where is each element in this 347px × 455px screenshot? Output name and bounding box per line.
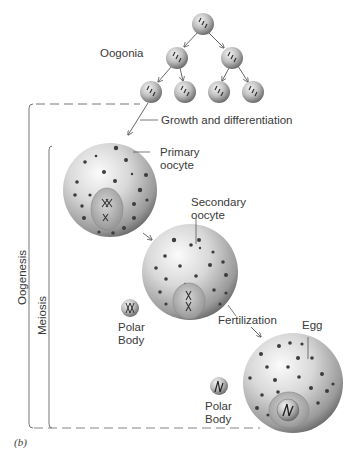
diagram-graphics — [0, 0, 347, 455]
polar-body-2-label-1: Polar — [205, 400, 232, 413]
egg-label: Egg — [302, 319, 322, 332]
polar-body-1-label-1: Polar — [118, 321, 145, 334]
primary-oocyte — [63, 143, 157, 237]
secondary-oocyte — [142, 224, 238, 320]
oogenesis-diagram: Oogonia Growth and differentiation Prima… — [0, 0, 347, 455]
polar-body-2-label-2: Body — [205, 413, 231, 426]
oogonium-cell — [242, 81, 264, 103]
meiosis-bracket-label: Meiosis — [36, 296, 48, 335]
fertilization-label: Fertilization — [218, 314, 277, 327]
polar-body-1 — [121, 299, 139, 317]
primary-oocyte-label-1: Primary — [160, 146, 200, 159]
oogonium-cell — [221, 47, 243, 69]
meiosis-bracket — [49, 146, 52, 428]
secondary-oocyte-label-1: Secondary — [191, 196, 246, 209]
polar-body-2 — [210, 377, 228, 395]
oogonia-label: Oogonia — [100, 47, 143, 60]
egg — [243, 333, 343, 433]
growth-label: Growth and differentiation — [161, 114, 292, 127]
polar-body-1-label-2: Body — [118, 334, 144, 347]
oogonium-cell — [166, 47, 188, 69]
oogonia-cells — [140, 13, 264, 103]
oogonium-cell — [208, 81, 230, 103]
oogenesis-bracket-label: Oogenesis — [16, 250, 28, 305]
secondary-oocyte-label-2: oocyte — [191, 209, 225, 222]
oogonium-cell — [174, 81, 196, 103]
oogonium-cell — [140, 81, 162, 103]
oogonium-cell — [192, 13, 214, 35]
panel-label: (b) — [14, 436, 27, 448]
primary-oocyte-label-2: oocyte — [160, 159, 194, 172]
